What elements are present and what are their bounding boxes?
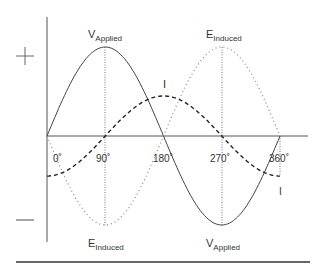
- waveform-diagram: VApplied EInduced I 0˚ 90˚ 180˚ 270˚ 360…: [0, 0, 324, 273]
- tick-270: 270˚: [210, 153, 230, 164]
- current-bottom-label: I: [279, 186, 282, 197]
- e-induced-top-label: EInduced: [206, 28, 242, 43]
- v-applied-top-label: VApplied: [88, 28, 122, 43]
- tick-90: 90˚: [96, 153, 110, 164]
- tick-0: 0˚: [53, 153, 62, 164]
- tick-360: 360˚: [269, 153, 289, 164]
- current-top-label: I: [163, 78, 166, 90]
- tick-180: 180˚: [153, 153, 173, 164]
- plus-sign-icon: [16, 47, 34, 65]
- e-induced-bottom-label: EInduced: [88, 237, 124, 252]
- v-applied-bottom-label: VApplied: [206, 237, 240, 252]
